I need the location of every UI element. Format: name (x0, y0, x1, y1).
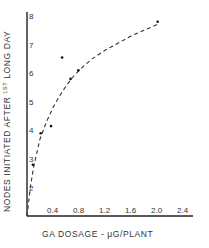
y-tick-label: 5 (29, 98, 34, 107)
data-point (32, 163, 35, 166)
data-point (50, 125, 53, 128)
y-axis-label-end: LONG DAY (2, 31, 12, 82)
axes (27, 12, 193, 216)
x-tick-label: 0.4 (47, 206, 59, 215)
x-tick-label: 1.6 (125, 206, 137, 215)
y-axis-label-sup: 1ST (2, 82, 8, 94)
chart: 0.40.81.21.62.02.42345678 GA DOSAGE - μG… (0, 0, 209, 248)
data-point (156, 20, 159, 23)
x-axis-label: GA DOSAGE - μG/PLANT (42, 229, 153, 239)
y-axis-label-main: NODES INITIATED AFTER (2, 94, 12, 212)
y-tick-label: 6 (29, 69, 34, 78)
data-point (39, 132, 42, 135)
tick-labels: 0.40.81.21.62.02.42345678 (29, 12, 189, 215)
x-tick-label: 0.8 (73, 206, 85, 215)
x-tick-label: 2.0 (151, 206, 163, 215)
x-tick-label: 2.4 (177, 206, 189, 215)
fitted-curve (27, 25, 157, 217)
y-tick-label: 8 (29, 12, 34, 21)
data-point (69, 78, 72, 81)
x-tick-label: 1.2 (99, 206, 111, 215)
y-tick-label: 7 (29, 41, 34, 50)
y-axis-label: NODES INITIATED AFTER 1ST LONG DAY (2, 31, 12, 212)
y-tick-label: 3 (29, 155, 34, 164)
data-points (32, 20, 159, 166)
data-point (77, 69, 80, 72)
y-tick-label: 4 (29, 126, 34, 135)
data-point (61, 56, 64, 59)
